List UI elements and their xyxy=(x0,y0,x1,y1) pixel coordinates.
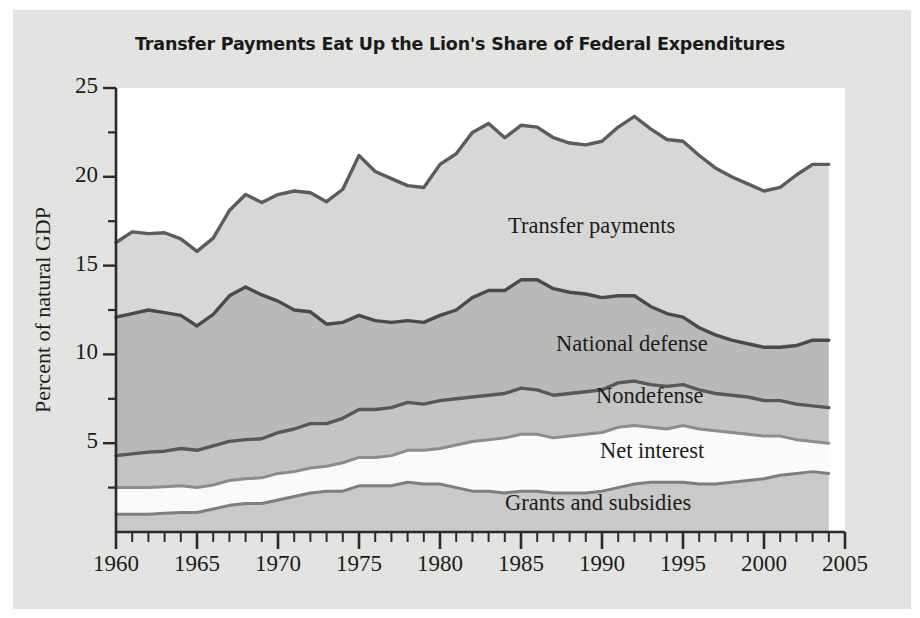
x-tick-label: 1995 xyxy=(638,551,728,577)
series-label-grants-and-subsidies: Grants and subsidies xyxy=(505,490,691,516)
chart-svg xyxy=(0,0,920,618)
series-label-national-defense: National defense xyxy=(556,331,708,357)
y-tick-label: 10 xyxy=(38,339,98,365)
x-tick-label: 2005 xyxy=(800,551,890,577)
y-tick-label: 20 xyxy=(38,162,98,188)
x-tick-label: 1960 xyxy=(71,551,161,577)
y-tick-label: 5 xyxy=(38,428,98,454)
series-label-nondefense: Nondefense xyxy=(596,383,703,409)
x-tick-label: 1975 xyxy=(314,551,404,577)
stacked-areas xyxy=(116,116,829,532)
y-tick-label: 15 xyxy=(38,251,98,277)
x-tick-label: 1970 xyxy=(233,551,323,577)
x-tick-label: 1985 xyxy=(476,551,566,577)
y-tick-label: 25 xyxy=(38,73,98,99)
series-label-net-interest: Net interest xyxy=(600,438,704,464)
x-tick-label: 1990 xyxy=(557,551,647,577)
x-tick-label: 1980 xyxy=(395,551,485,577)
x-tick-label: 2000 xyxy=(719,551,809,577)
chart-figure: Transfer Payments Eat Up the Lion's Shar… xyxy=(0,0,920,618)
x-tick-label: 1965 xyxy=(152,551,242,577)
series-label-transfer-payments: Transfer payments xyxy=(508,213,675,239)
y-axis-label: Percent of natural GDP xyxy=(30,160,56,460)
